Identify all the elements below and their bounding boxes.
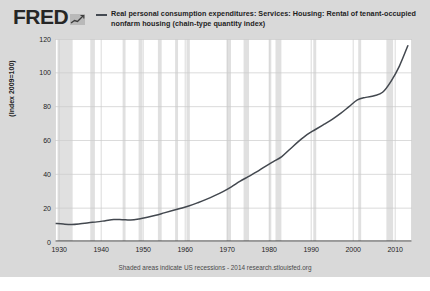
- legend-series-label: Real personal consumption expenditures: …: [111, 9, 422, 28]
- y-tick-label: 40: [11, 171, 51, 178]
- x-tick-label: 2010: [375, 246, 415, 253]
- chart-canvas: [55, 39, 412, 242]
- y-tick-label: 100: [11, 69, 51, 76]
- x-tick-label: 1930: [39, 246, 79, 253]
- x-tick-label: 1950: [123, 246, 163, 253]
- y-tick-label: 80: [11, 103, 51, 110]
- chart-header: FRED Real personal consumption expenditu…: [0, 0, 430, 38]
- legend-color-swatch: [96, 14, 107, 16]
- x-tick-label: 1980: [249, 246, 289, 253]
- x-tick-label: 1970: [207, 246, 247, 253]
- fred-chart-widget: FRED Real personal consumption expenditu…: [0, 0, 430, 277]
- x-tick-label: 1990: [291, 246, 331, 253]
- y-axis-tick-labels: 020406080100120: [10, 39, 51, 242]
- fred-logo: FRED: [13, 7, 85, 27]
- footer-note: Shaded areas indicate US recessions - 20…: [0, 264, 430, 271]
- y-tick-label: 0: [11, 239, 51, 246]
- x-tick-label: 1940: [81, 246, 121, 253]
- mini-line-chart-icon: [70, 14, 85, 25]
- chart-legend: Real personal consumption expenditures: …: [96, 9, 422, 28]
- y-tick-label: 120: [11, 36, 51, 43]
- plot-area: [55, 39, 412, 242]
- x-tick-label: 1960: [165, 246, 205, 253]
- fred-wordmark: FRED: [13, 7, 68, 27]
- x-tick-label: 2000: [333, 246, 373, 253]
- y-tick-label: 60: [11, 137, 51, 144]
- y-tick-label: 20: [11, 205, 51, 212]
- x-axis-tick-labels: 193019401950196019701980199020002010: [55, 246, 412, 258]
